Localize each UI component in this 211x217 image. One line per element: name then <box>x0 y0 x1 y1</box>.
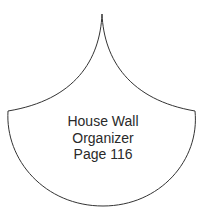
label-line-3: Page 116 <box>0 146 206 163</box>
label-line-2: Organizer <box>0 130 206 147</box>
template-label: House Wall Organizer Page 116 <box>0 113 206 163</box>
label-line-1: House Wall <box>0 113 206 130</box>
scallop-shape-outline <box>0 0 211 217</box>
